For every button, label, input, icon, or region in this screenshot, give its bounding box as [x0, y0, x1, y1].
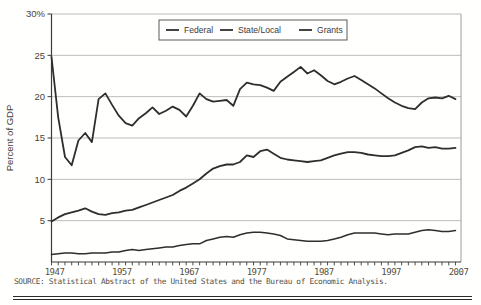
state-local-line — [52, 146, 456, 221]
x-tick-label-1957: 1957 — [112, 267, 132, 277]
x-tick-label-1977: 1977 — [247, 267, 267, 277]
y-tick-label-20: 20 — [34, 91, 45, 102]
chart-canvas: 30%2520151051947195719671977198719972007… — [0, 0, 481, 294]
legend-label-state-local: State/Local — [238, 25, 281, 35]
x-tick-label-1947: 1947 — [45, 267, 65, 277]
legend-label-grants: Grants — [317, 25, 343, 35]
y-tick-label-30: 30% — [26, 8, 46, 19]
y-tick-label-25: 25 — [34, 50, 45, 61]
federal-line — [52, 57, 456, 165]
y-axis-title: Percent of GDP — [4, 105, 15, 172]
y-tick-label-5: 5 — [40, 215, 45, 226]
bottom-rule — [13, 296, 472, 300]
x-tick-label-1997: 1997 — [381, 267, 401, 277]
y-tick-label-15: 15 — [34, 132, 45, 143]
legend-label-federal: Federal — [184, 25, 213, 35]
grants-line — [52, 230, 456, 255]
source-note: SOURCE: Statistical Abstract of the Unit… — [14, 277, 474, 286]
x-tick-label-1967: 1967 — [179, 267, 199, 277]
figure-government-spending-chart: 30%2520151051947195719671977198719972007… — [0, 0, 481, 305]
x-tick-label-1987: 1987 — [314, 267, 334, 277]
y-tick-label-10: 10 — [34, 174, 45, 185]
x-tick-label-2007: 2007 — [449, 267, 469, 277]
